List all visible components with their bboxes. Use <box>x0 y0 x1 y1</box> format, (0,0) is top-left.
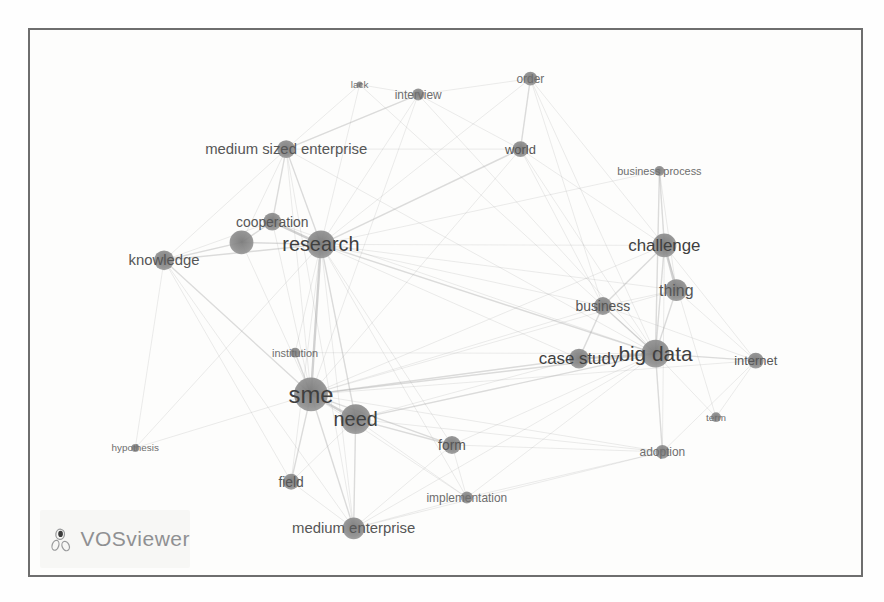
edge-medium-sized-enterprise--sme <box>286 149 311 394</box>
node-institution[interactable] <box>290 348 300 358</box>
node-thing[interactable] <box>665 279 687 301</box>
node-need[interactable] <box>341 404 371 434</box>
node-business[interactable] <box>594 297 612 315</box>
network-map-canvas[interactable]: lackintervieworderworldbusiness processm… <box>30 30 861 575</box>
edge-lack--research <box>321 85 360 245</box>
edge-medium-sized-enterprise--medium-enterprise <box>286 149 354 528</box>
edge-medium-sized-enterprise--unlabeled-cluster-node <box>241 149 286 242</box>
node-unlabeled-cluster-node[interactable] <box>230 231 254 255</box>
edge-internet--adoption <box>662 361 755 452</box>
edge-internet--term <box>716 361 756 418</box>
edge-big-data--institution <box>295 353 655 354</box>
node-lack[interactable] <box>357 82 363 88</box>
node-sme[interactable] <box>294 377 328 411</box>
edge-big-data--internet <box>655 354 755 361</box>
vosviewer-logo-text: VOSviewer <box>80 527 190 551</box>
edge-need--medium-enterprise <box>354 419 356 528</box>
node-world[interactable] <box>513 141 529 157</box>
edge-field--medium-enterprise <box>291 482 354 529</box>
edge-research--challenge <box>321 244 664 245</box>
vosviewer-logo-icon <box>50 521 73 557</box>
edge-knowledge--sme <box>164 260 311 394</box>
edge-world--research <box>321 149 521 244</box>
scanned-figure-page: lackintervieworderworldbusiness processm… <box>0 0 884 602</box>
node-interview[interactable] <box>412 89 424 101</box>
edge-world--challenge <box>520 149 664 245</box>
edge-challenge--internet <box>664 245 755 360</box>
vosviewer-map-frame: lackintervieworderworldbusiness processm… <box>28 28 863 577</box>
edge-world--big-data <box>520 149 655 353</box>
edge-thing--business <box>603 290 676 306</box>
node-adoption[interactable] <box>655 445 669 459</box>
edge-research--case-study <box>321 244 579 358</box>
node-hypothesis[interactable] <box>131 444 139 452</box>
edge-order--business <box>530 79 602 306</box>
nodes-layer <box>131 72 763 540</box>
node-challenge[interactable] <box>652 234 676 258</box>
node-case-study[interactable] <box>569 349 589 369</box>
edge-implementation--medium-enterprise <box>354 498 467 529</box>
edge-world--sme <box>311 149 520 394</box>
edge-unlabeled-cluster-node--sme <box>241 242 310 394</box>
edges-layer <box>135 79 755 529</box>
node-implementation[interactable] <box>461 492 473 504</box>
edge-business--internet <box>603 306 756 361</box>
edge-order--challenge <box>530 79 664 246</box>
edge-adoption--medium-enterprise <box>354 452 663 528</box>
node-knowledge[interactable] <box>154 250 174 270</box>
edge-unlabeled-cluster-node--knowledge <box>164 242 241 260</box>
edge-world--business <box>520 149 602 306</box>
node-form[interactable] <box>443 436 461 454</box>
edge-challenge--term <box>664 245 716 417</box>
edge-knowledge--field <box>164 260 291 481</box>
edge-case-study--need <box>356 359 579 420</box>
edge-knowledge--hypothesis <box>135 260 164 448</box>
vosviewer-logo: VOSviewer <box>40 510 190 568</box>
node-term[interactable] <box>711 412 721 422</box>
edge-order--world <box>520 79 530 149</box>
node-research[interactable] <box>307 231 335 259</box>
edge-lack--medium-sized-enterprise <box>286 85 359 150</box>
edge-order--big-data <box>530 79 655 354</box>
edge-research--hypothesis <box>135 244 321 448</box>
edge-interview--world <box>418 95 520 150</box>
node-medium-sized-enterprise[interactable] <box>277 140 295 158</box>
node-field[interactable] <box>283 474 299 490</box>
node-internet[interactable] <box>748 353 764 369</box>
edge-big-data--sme <box>311 354 655 395</box>
node-medium-enterprise[interactable] <box>343 517 365 539</box>
node-big-data[interactable] <box>642 340 670 368</box>
node-cooperation[interactable] <box>263 213 281 231</box>
edge-challenge--business <box>603 245 665 306</box>
edge-sme--hypothesis <box>135 394 311 448</box>
node-order[interactable] <box>523 72 537 86</box>
edge-interview--medium-sized-enterprise <box>286 95 418 150</box>
edge-order--research <box>321 79 530 245</box>
node-business-process[interactable] <box>654 166 664 176</box>
